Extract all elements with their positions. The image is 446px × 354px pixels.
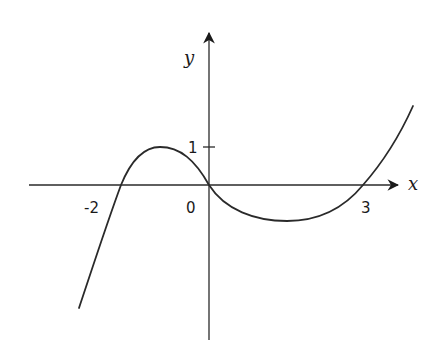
- y-axis-label: y: [183, 47, 195, 68]
- x-tick-label-neg2: -2: [84, 199, 99, 217]
- x-tick-label-0: 0: [186, 199, 196, 217]
- cubic-graph: -2 0 3 1 y x: [0, 0, 446, 354]
- y-tick-label-1: 1: [188, 139, 198, 157]
- x-axis-label: x: [408, 173, 418, 194]
- x-tick-label-3: 3: [361, 199, 371, 217]
